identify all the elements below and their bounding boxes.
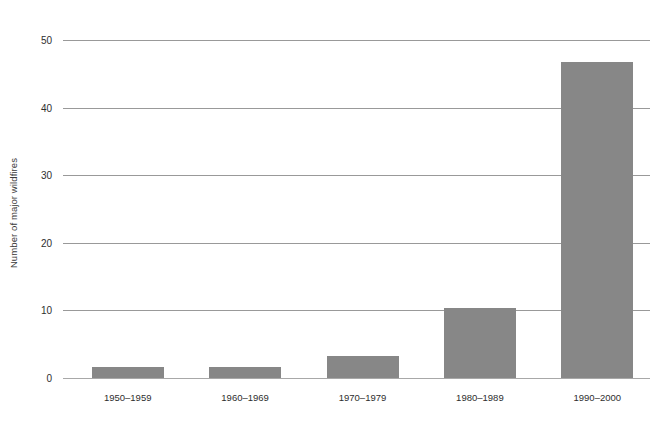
plot-area [63,20,650,380]
bar [209,367,281,378]
x-tick-label: 1960–1969 [221,392,269,403]
bar [561,62,633,378]
bar-chart: Number of major wildfires 01020304050 19… [0,0,672,426]
x-axis-tick-labels: 1950–19591960–19691970–19791980–19891990… [63,392,650,410]
x-tick-label: 1980–1989 [456,392,504,403]
bar [444,308,516,378]
x-tick-label: 1990–2000 [574,392,622,403]
bar [327,356,399,378]
y-tick-label: 0 [22,373,52,384]
y-axis-tick-labels: 01020304050 [0,20,52,380]
y-tick-label: 20 [22,237,52,248]
y-tick-label: 10 [22,305,52,316]
x-tick-label: 1950–1959 [104,392,152,403]
gridline-0 [63,378,650,379]
y-tick-label: 50 [22,35,52,46]
bars-group [63,20,650,378]
y-tick-label: 30 [22,170,52,181]
y-tick-label: 40 [22,102,52,113]
x-tick-label: 1970–1979 [339,392,387,403]
bar [92,367,164,378]
